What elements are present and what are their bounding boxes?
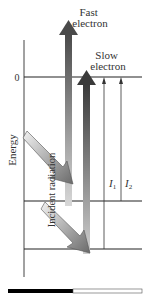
energy-level-diagram: Fast electron Slow electron 0 Energy Inc… [0,0,148,294]
zero-label: 0 [15,72,20,83]
i1-label: I1 [108,177,117,191]
slow-electron-arrow [77,70,96,254]
slow-electron-label: Slow electron [90,49,126,72]
i1-arrow [102,77,106,249]
fast-electron-label: Fast electron [72,6,108,29]
i2-label: I2 [124,177,133,191]
energy-axis-label: Energy [6,134,18,166]
i2-arrow [119,77,123,201]
incident-radiation-label: Incident radiation [46,152,57,227]
bottom-scale-bar [8,289,142,293]
